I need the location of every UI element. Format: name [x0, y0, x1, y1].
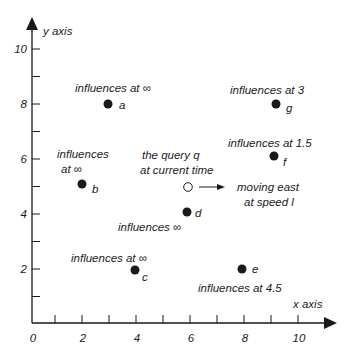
x-tick-4: 4 [134, 332, 140, 344]
point-b-note-line2: at ∞ [61, 163, 82, 175]
point-b: influences at ∞ b [57, 148, 109, 195]
filled-dot-icon [104, 100, 113, 109]
point-a: influences at ∞ a [75, 82, 151, 111]
point-f: influences at 1.5 f [228, 137, 312, 168]
point-g-label: g [286, 102, 293, 114]
point-b-note-line1: influences [57, 148, 109, 160]
x-tick-2: 2 [79, 332, 87, 344]
query-note-line2: at current time [140, 164, 214, 176]
filled-dot-icon [238, 265, 247, 274]
query-note-line1: the query q [142, 149, 200, 161]
point-a-label: a [119, 99, 125, 111]
point-c-label: c [142, 271, 148, 283]
point-g: influences at 3 g [230, 84, 305, 114]
filled-dot-icon [270, 152, 279, 161]
y-tick-8: 8 [21, 98, 28, 110]
motion-note-line2: at speed l [244, 196, 294, 208]
x-tick-6: 6 [188, 332, 195, 344]
y-tick-labels: 2 4 6 8 10 [14, 43, 27, 275]
scatter-diagram: 0 2 4 6 8 10 2 4 6 8 10 y axis x axis in… [0, 0, 354, 364]
y-axis [26, 17, 40, 323]
point-a-note: influences at ∞ [75, 82, 151, 94]
filled-dot-icon [78, 180, 87, 189]
hollow-dot-icon [184, 183, 193, 192]
y-tick-2: 2 [20, 263, 28, 275]
y-tick-10: 10 [14, 43, 27, 55]
x-tick-8: 8 [242, 332, 249, 344]
y-axis-title: y axis [42, 25, 73, 37]
y-tick-4: 4 [21, 208, 27, 220]
point-g-note: influences at 3 [230, 84, 305, 96]
point-e: e influences at 4.5 [198, 263, 282, 294]
filled-dot-icon [183, 208, 192, 217]
y-axis-arrow-icon [26, 17, 38, 30]
point-e-note: influences at 4.5 [198, 282, 282, 294]
point-c-note: influences at ∞ [71, 252, 147, 264]
point-f-label: f [283, 156, 288, 168]
filled-dot-icon [272, 100, 281, 109]
x-axis-title: x axis [292, 298, 323, 310]
x-tick-labels: 0 2 4 6 8 10 [30, 332, 306, 344]
point-d: d influences ∞ [118, 207, 202, 233]
arrow-right-icon [217, 184, 225, 190]
point-f-note: influences at 1.5 [228, 137, 312, 149]
x-tick-10: 10 [293, 332, 306, 344]
point-e-label: e [252, 263, 258, 275]
x-axis [32, 315, 337, 329]
y-tick-6: 6 [21, 153, 28, 165]
point-c: influences at ∞ c [71, 252, 148, 283]
point-d-label: d [195, 207, 202, 219]
x-axis-arrow-icon [324, 317, 337, 329]
x-tick-0: 0 [30, 332, 37, 344]
motion-note-line1: moving east [237, 181, 300, 193]
filled-dot-icon [131, 266, 140, 275]
point-b-label: b [92, 183, 99, 195]
point-d-note: influences ∞ [118, 221, 181, 233]
